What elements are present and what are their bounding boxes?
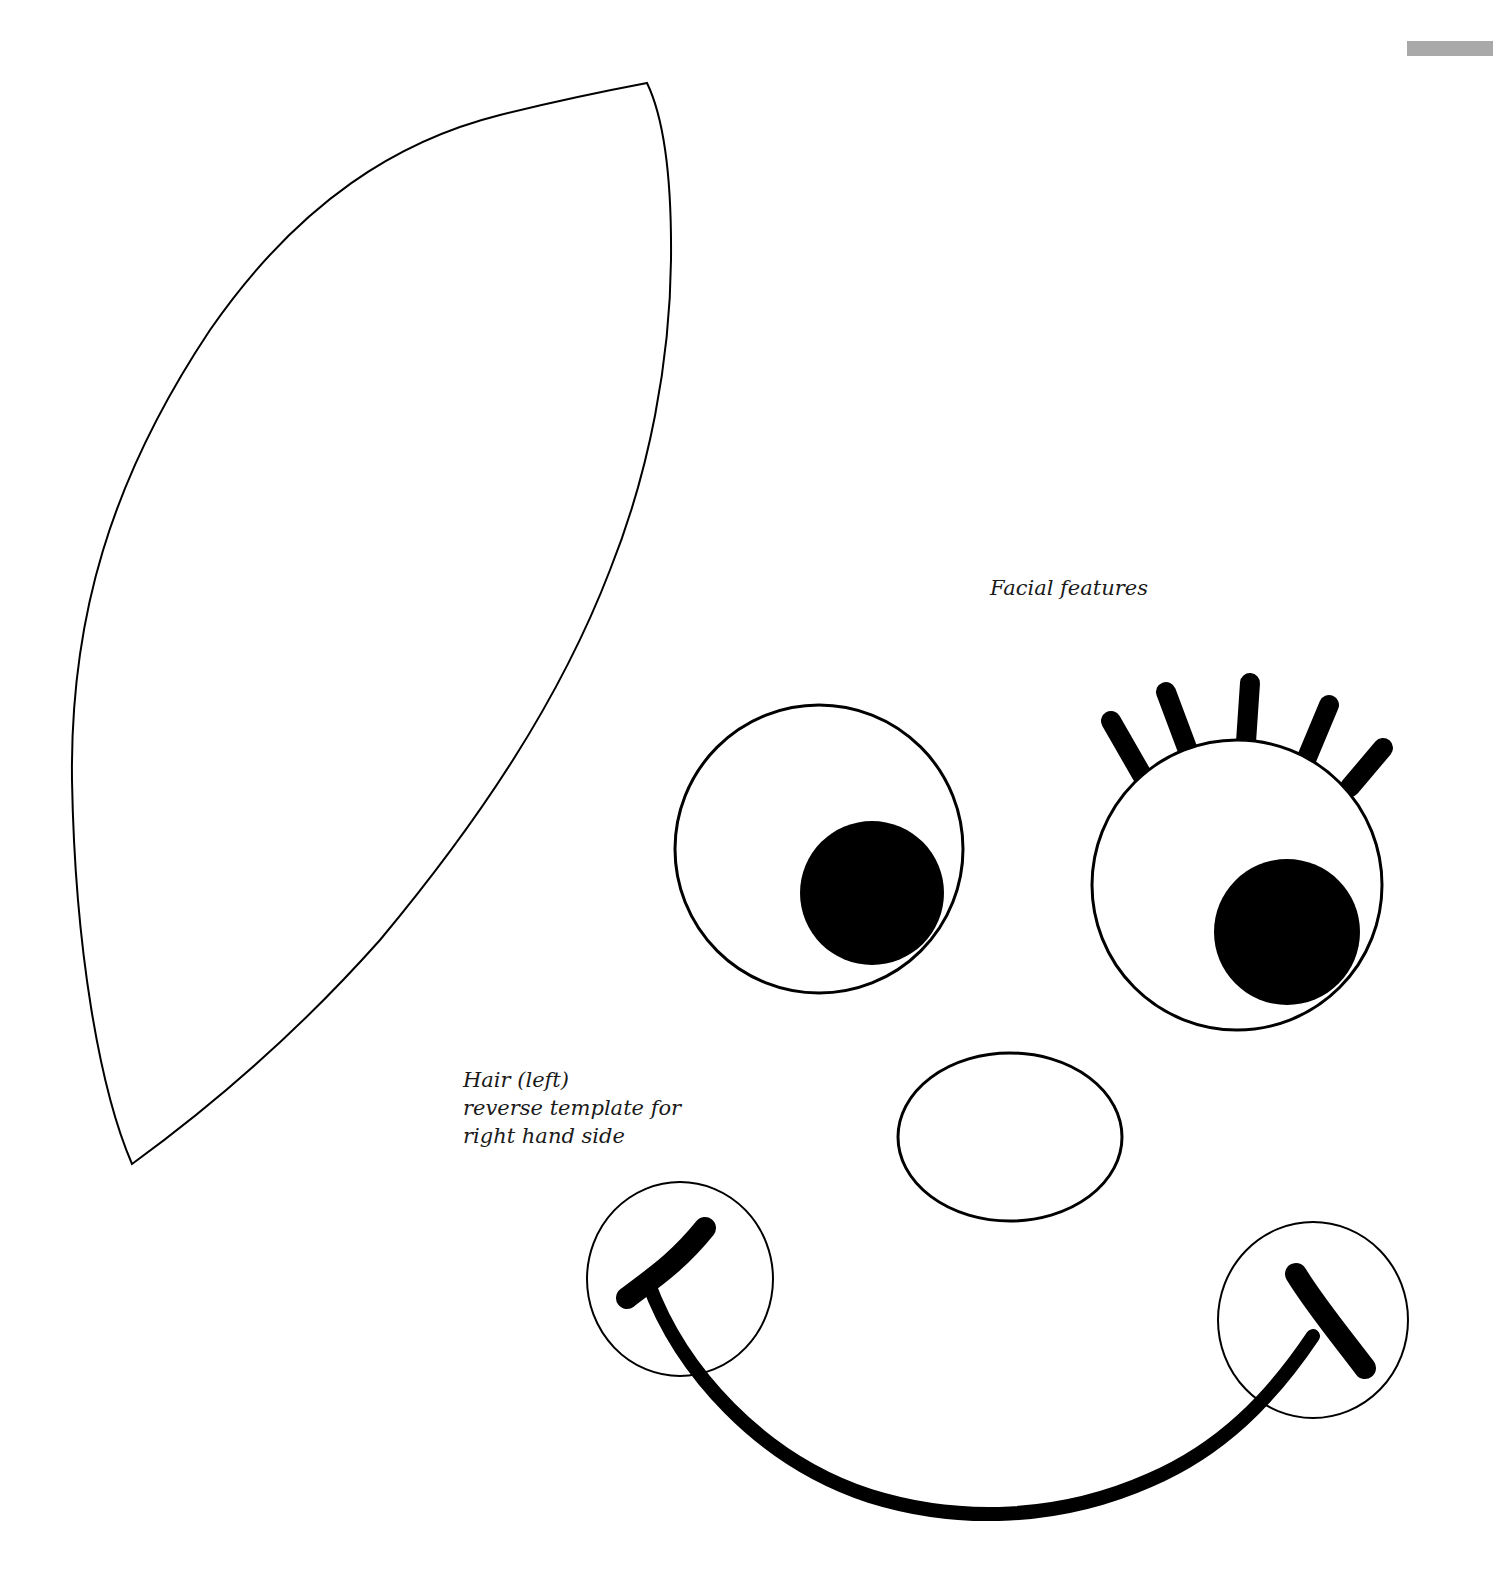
smile-mouth (627, 1228, 1365, 1514)
template-page: Facial features Hair (left) reverse temp… (0, 0, 1493, 1578)
hair-label-line-2: reverse template for (463, 1094, 681, 1122)
nose (898, 1053, 1122, 1221)
facial-features-artwork (0, 0, 1493, 1578)
right-pupil (1214, 859, 1360, 1005)
hair-label-line-3: right hand side (463, 1122, 681, 1150)
facial-features-label: Facial features (990, 574, 1148, 602)
hair-label-line-1: Hair (left) (463, 1066, 681, 1094)
right-eye (1092, 683, 1383, 1030)
left-eye (675, 705, 963, 993)
hair-label: Hair (left) reverse template for right h… (463, 1066, 681, 1150)
left-pupil (800, 821, 944, 965)
hair-template-shape (72, 83, 671, 1164)
